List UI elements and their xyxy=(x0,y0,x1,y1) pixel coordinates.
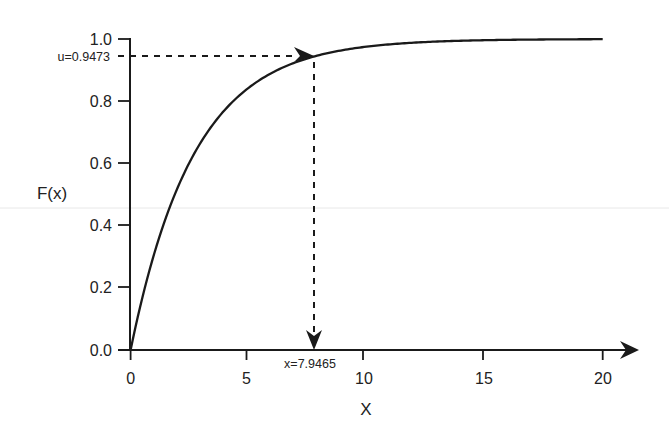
y-tick-label: 0.4 xyxy=(90,217,112,234)
y-tick-label: 0.8 xyxy=(90,93,112,110)
y-tick-label: 0.6 xyxy=(90,155,112,172)
x-tick-label: 5 xyxy=(242,370,251,387)
x-tick-label: 20 xyxy=(594,370,612,387)
x-tick-label: 10 xyxy=(355,370,373,387)
u-annotation-label: u=0.9473 xyxy=(58,50,111,64)
cdf-curve xyxy=(131,39,603,350)
y-tick-label: 0.0 xyxy=(90,342,112,359)
x-axis-title: X xyxy=(360,400,371,419)
cdf-chart: 1.0 0.8 0.6 0.4 0.2 0.0 F(x) 0 5 10 15 2… xyxy=(0,0,669,435)
x-tick-label: 15 xyxy=(475,370,493,387)
x-tick-label: 0 xyxy=(126,370,135,387)
x-annotation-label: x=7.9465 xyxy=(284,357,336,371)
y-axis-title: F(x) xyxy=(37,184,67,203)
y-tick-label: 0.2 xyxy=(90,279,112,296)
x-arrow-icon xyxy=(306,330,322,350)
y-tick-label: 1.0 xyxy=(90,31,112,48)
